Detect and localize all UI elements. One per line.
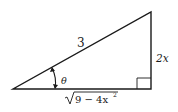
adjacent-label: 9 − 4x 2 (65, 91, 118, 105)
right-angle-marker (137, 78, 151, 89)
angle-label: θ (61, 75, 67, 86)
adjacent-radicand: 9 − 4x (75, 94, 108, 105)
arc-arrow-bottom-icon (53, 84, 58, 89)
right-triangle (13, 12, 151, 89)
triangle-svg: 3 2x θ 9 − 4x 2 (0, 0, 178, 112)
adjacent-exponent: 2 (113, 91, 117, 98)
triangle-diagram: 3 2x θ 9 − 4x 2 (0, 0, 178, 112)
opposite-label: 2x (155, 52, 169, 64)
hypotenuse-label: 3 (77, 36, 85, 50)
